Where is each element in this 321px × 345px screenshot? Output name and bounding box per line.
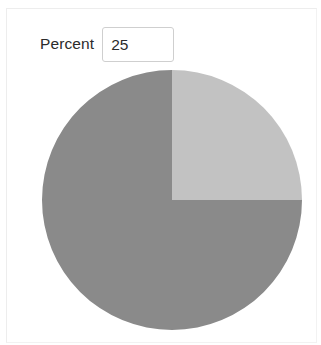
percent-label: Percent — [40, 36, 94, 53]
page-root: Percent — [0, 0, 321, 345]
pie-chart — [42, 70, 302, 330]
percent-control-row: Percent — [40, 27, 174, 62]
pie-chart-svg — [42, 70, 302, 330]
pie-slice-percent — [172, 70, 302, 200]
pie-slices — [42, 70, 302, 330]
percent-input[interactable] — [102, 27, 174, 62]
